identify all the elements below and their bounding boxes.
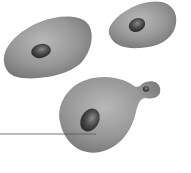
- cell-left: [4, 17, 92, 79]
- diagram-canvas: [0, 0, 191, 173]
- cell-bottom-budding: [59, 77, 160, 153]
- cell-diagram: [0, 0, 191, 173]
- cell-top-right: [109, 1, 177, 48]
- bud-nucleus: [143, 86, 149, 92]
